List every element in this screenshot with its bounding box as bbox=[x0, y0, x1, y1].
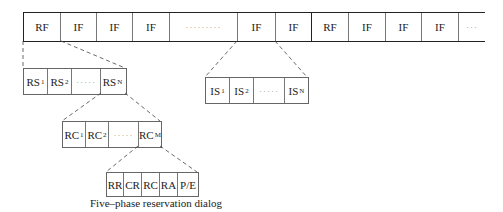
expansion-lines bbox=[0, 0, 503, 212]
